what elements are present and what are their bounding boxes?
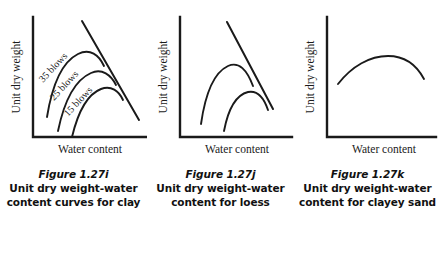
plot-area-clay: 35 blows 25 blows 15 blows Unit dry weig… xyxy=(0,0,147,166)
figure-panel-clay: 35 blows 25 blows 15 blows Unit dry weig… xyxy=(0,0,147,257)
zero-air-voids-line xyxy=(82,21,139,120)
chart-clayey-sand: Unit dry weight Water content xyxy=(294,0,441,166)
figure-panel-clayey-sand: Unit dry weight Water content Figure 1.2… xyxy=(294,0,441,257)
figure-number: Figure 1.27i xyxy=(0,168,147,182)
chart-loess: Unit dry weight Water content xyxy=(147,0,294,166)
x-axis-label: Water content xyxy=(58,143,123,155)
figure-panel-loess: Unit dry weight Water content Figure 1.2… xyxy=(147,0,294,257)
figure-caption-text: Unit dry weight-water content for clayey… xyxy=(294,182,441,209)
figure-caption-loess: Figure 1.27j Unit dry weight-water conte… xyxy=(147,168,294,209)
figure-number: Figure 1.27j xyxy=(147,168,294,182)
figure-number: Figure 1.27k xyxy=(294,168,441,182)
figure-page: 35 blows 25 blows 15 blows Unit dry weig… xyxy=(0,0,441,257)
axis-lines xyxy=(180,17,292,137)
y-axis-label: Unit dry weight xyxy=(10,40,23,114)
panel-row: 35 blows 25 blows 15 blows Unit dry weig… xyxy=(0,0,441,257)
figure-caption-text: Unit dry weight-water content curves for… xyxy=(0,182,147,209)
figure-caption-clay: Figure 1.27i Unit dry weight-water conte… xyxy=(0,168,147,209)
chart-clay: 35 blows 25 blows 15 blows Unit dry weig… xyxy=(0,0,147,166)
y-axis-label: Unit dry weight xyxy=(157,40,170,114)
curve-upper xyxy=(201,65,253,124)
plot-area-loess: Unit dry weight Water content xyxy=(147,0,294,166)
x-axis-label: Water content xyxy=(205,143,270,155)
curve-lower xyxy=(224,92,268,131)
curve-compaction xyxy=(338,56,424,84)
figure-caption-clayey-sand: Figure 1.27k Unit dry weight-water conte… xyxy=(294,168,441,209)
plot-area-clayey-sand: Unit dry weight Water content xyxy=(294,0,441,166)
y-axis-label: Unit dry weight xyxy=(304,40,317,114)
figure-caption-text: Unit dry weight-water content for loess xyxy=(147,182,294,209)
x-axis-label: Water content xyxy=(352,143,417,155)
